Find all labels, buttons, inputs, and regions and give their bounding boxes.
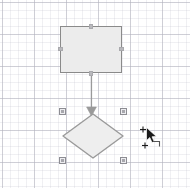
elbow-connector-icon <box>153 142 160 147</box>
diamond-outline <box>63 114 123 158</box>
selection-handle-top-left[interactable] <box>59 108 66 115</box>
arrow-pointer-icon <box>147 128 157 143</box>
shape-diamond[interactable] <box>62 113 124 159</box>
selection-handle-bottom-left[interactable] <box>59 157 66 164</box>
rect-handle-top[interactable] <box>89 24 93 29</box>
selection-handle-top-right[interactable] <box>120 108 127 115</box>
selection-handle-bottom-right[interactable] <box>120 157 127 164</box>
rect-handle-left[interactable] <box>58 47 63 51</box>
shape-rectangle[interactable] <box>60 26 122 73</box>
rect-handle-right[interactable] <box>119 47 124 51</box>
crosshair-icon <box>140 127 146 133</box>
diagram-canvas[interactable] <box>0 0 190 188</box>
draw-connection-cursor <box>139 125 165 151</box>
connector-arrow[interactable] <box>85 72 98 117</box>
crosshair-secondary-icon <box>142 143 148 149</box>
rect-handle-bottom[interactable] <box>89 71 93 76</box>
